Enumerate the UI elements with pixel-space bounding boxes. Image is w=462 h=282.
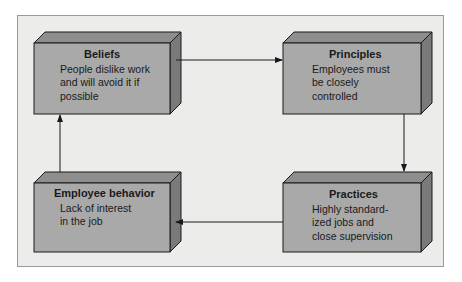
box-beliefs-body: People dislike work and will avoid it if… [60,63,150,104]
box-beliefs-text: Beliefs People dislike work and will avo… [60,48,150,103]
box-principles-title: Principles [329,48,390,62]
box-practices-title: Practices [329,188,393,202]
box-practices-body: Highly standard- ized jobs and close sup… [312,203,393,244]
box-practices-text: Practices Highly standard- ized jobs and… [312,188,393,243]
box-employee-behavior-body: Lack of interest in the job [60,202,155,229]
box-principles-body: Employees must be closely controlled [312,63,390,104]
box-principles-text: Principles Employees must be closely con… [312,48,390,103]
box-employee-behavior-text: Employee behavior Lack of interest in th… [54,187,155,229]
box-employee-behavior-title: Employee behavior [54,187,155,201]
box-beliefs-title: Beliefs [84,48,150,62]
